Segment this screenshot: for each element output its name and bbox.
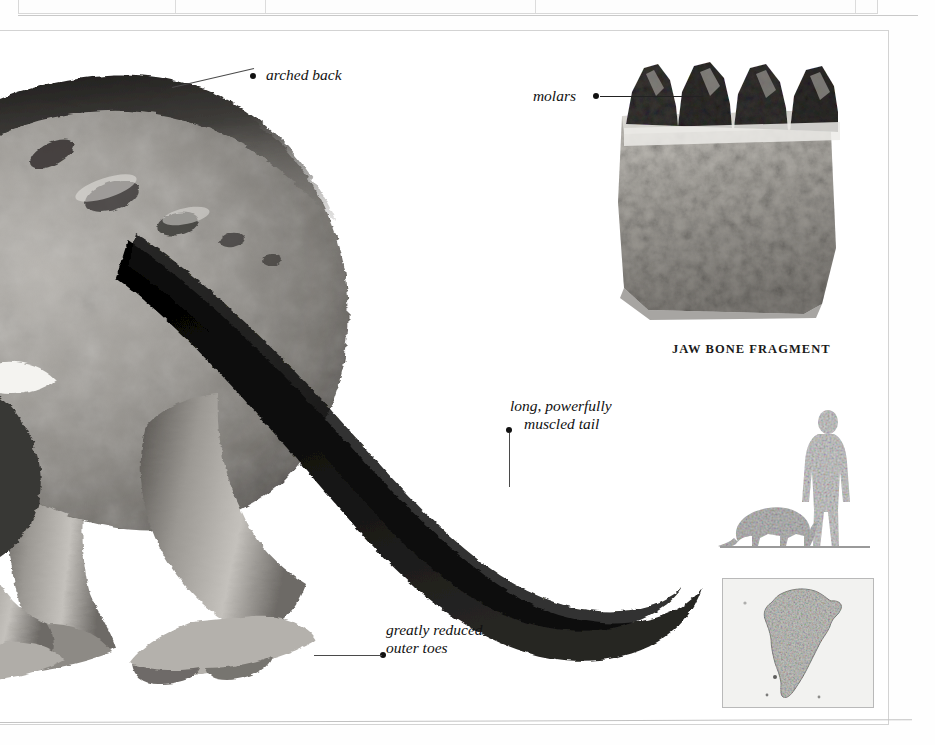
callout-label-arched-back: arched back xyxy=(266,66,342,84)
callout-label-molars: molars xyxy=(466,87,576,105)
callout-label-muscled-tail: long, powerfully muscled tail xyxy=(510,397,612,434)
table-divider xyxy=(265,0,266,13)
distribution-map xyxy=(722,578,874,708)
callout-dot-molars xyxy=(593,93,599,99)
table-divider xyxy=(855,0,856,13)
jaw-bone-fossil-image xyxy=(608,52,848,334)
callout-dot-arched-back xyxy=(250,73,256,79)
leader-line-muscled-tail xyxy=(509,433,510,487)
fossil-caption: JAW BONE FRAGMENT xyxy=(672,342,831,357)
ground-line xyxy=(720,546,870,548)
table-divider xyxy=(535,0,536,13)
callout-label-outer-toes: greatly reduced outer toes xyxy=(386,621,483,658)
page-canvas: (cut off) xyxy=(0,0,935,745)
table-divider xyxy=(175,0,176,13)
callout-line-2: muscled tail xyxy=(510,415,612,433)
leader-line-outer-toes xyxy=(314,655,382,656)
callout-line-2: outer toes xyxy=(386,639,483,657)
callout-line-1: greatly reduced xyxy=(386,621,483,639)
animal-silhouette xyxy=(718,507,820,547)
table-fragment: (cut off) xyxy=(18,0,878,14)
leader-line-molars xyxy=(600,96,703,97)
callout-line-1: long, powerfully xyxy=(510,397,612,415)
scale-comparison-diagram xyxy=(716,408,876,566)
table-bottom-rule xyxy=(18,15,918,16)
